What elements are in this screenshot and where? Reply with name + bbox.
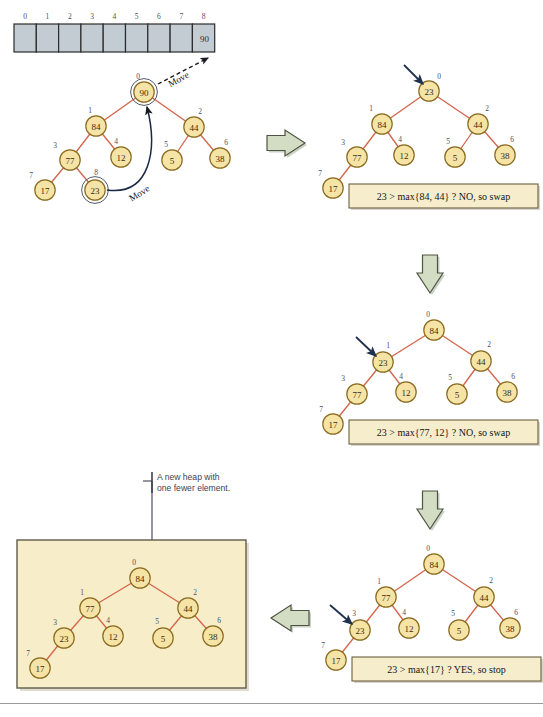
tree-node-value: 12 xyxy=(402,388,411,398)
tree-node-index: 6 xyxy=(511,372,515,381)
tree-node-value: 12 xyxy=(405,624,414,634)
tree-node-value: 44 xyxy=(474,120,484,130)
array-index-label: 4 xyxy=(112,12,116,21)
array-cell[interactable] xyxy=(36,24,58,52)
move-label-to-array: Move xyxy=(166,70,190,89)
tree-node-index: 6 xyxy=(510,135,514,144)
array-cell[interactable] xyxy=(103,24,125,52)
tree-node-value: 38 xyxy=(209,632,219,642)
tree-node-index: 2 xyxy=(193,588,197,597)
tree-node-value: 23 xyxy=(356,626,366,636)
heap-tree-step-3: 8407714422331245538617723 > max{17} ? YE… xyxy=(321,544,543,684)
tree-node-value: 38 xyxy=(503,388,513,398)
array-cell[interactable] xyxy=(126,24,148,52)
tree-node-value: 12 xyxy=(400,151,409,161)
tree-node-index: 4 xyxy=(399,372,403,381)
note-line-1: A new heap with xyxy=(157,472,220,482)
tree-node-value: 84 xyxy=(430,560,440,570)
tree-node-index: 3 xyxy=(341,138,345,147)
initial-heap-tree: 90084144277312455386177238 xyxy=(29,72,230,204)
array-cell[interactable] xyxy=(81,24,103,52)
tree-node-index: 7 xyxy=(26,649,30,658)
tree-node-value: 17 xyxy=(329,420,339,430)
current-node-pointer-arrow xyxy=(404,65,423,84)
tree-node-value: 23 xyxy=(425,87,435,97)
heap-array: 01234567890 xyxy=(14,12,215,53)
tree-node-index: 4 xyxy=(106,616,110,625)
tree-node-value: 17 xyxy=(41,186,51,196)
tree-node-index: 1 xyxy=(88,106,92,115)
tree-node-index: 2 xyxy=(198,107,202,116)
tree-node-value: 77 xyxy=(382,593,392,603)
tree-node-index: 5 xyxy=(451,609,455,618)
tree-node-value: 77 xyxy=(86,604,96,614)
caption-text: 23 > max{84, 44} ? NO, so swap xyxy=(377,191,510,202)
tree-node-index: 0 xyxy=(136,72,140,81)
array-index-label: 3 xyxy=(90,12,94,21)
flow-arrow-down-lower xyxy=(417,491,445,531)
tree-node-index: 5 xyxy=(446,137,450,146)
tree-node-index: 5 xyxy=(164,140,168,149)
flow-arrow-right-top xyxy=(267,130,307,158)
tree-node-value: 5 xyxy=(453,153,458,163)
tree-node-value: 77 xyxy=(353,390,363,400)
heap-delete-max-diagram: 0123456789090084144277312455386177238230… xyxy=(0,0,543,717)
tree-node-value: 5 xyxy=(170,156,175,166)
array-index-label: 2 xyxy=(68,12,72,21)
array-index-label: 7 xyxy=(179,12,183,21)
tree-node-index: 3 xyxy=(53,618,57,627)
tree-node-index: 1 xyxy=(80,588,84,597)
tree-node-index: 7 xyxy=(29,171,33,180)
tree-node-index: 0 xyxy=(132,558,136,567)
tree-node-index: 0 xyxy=(437,72,441,81)
tree-node-value: 38 xyxy=(216,154,226,164)
tree-node-value: 44 xyxy=(190,123,200,133)
tree-node-value: 44 xyxy=(480,593,490,603)
tree-node-value: 17 xyxy=(36,664,46,674)
tree-node-value: 23 xyxy=(379,358,389,368)
tree-node-index: 1 xyxy=(369,104,373,113)
tree-node-index: 7 xyxy=(319,405,323,414)
flow-arrow-left-bottom xyxy=(271,605,311,633)
tree-node-index: 4 xyxy=(114,137,118,146)
tree-node-value: 5 xyxy=(455,390,460,400)
array-cell[interactable] xyxy=(148,24,170,52)
tree-node-value: 23 xyxy=(60,634,70,644)
tree-node-index: 1 xyxy=(377,577,381,586)
tree-node-value: 5 xyxy=(457,626,462,636)
tree-node-index: 5 xyxy=(448,373,452,382)
array-index-label: 0 xyxy=(23,12,27,21)
tree-node-value: 17 xyxy=(329,184,339,194)
array-cell[interactable] xyxy=(170,24,192,52)
tree-node-value: 38 xyxy=(506,624,516,634)
tree-node-index: 7 xyxy=(318,169,322,178)
tree-node-value: 77 xyxy=(353,153,363,163)
tree-node-value: 38 xyxy=(501,151,511,161)
tree-node-index: 3 xyxy=(53,141,57,150)
figure-stage: 0123456789090084144277312455386177238230… xyxy=(0,0,543,717)
tree-node-value: 90 xyxy=(140,88,150,98)
tree-node-index: 0 xyxy=(426,310,430,319)
array-index-label: 6 xyxy=(157,12,161,21)
tree-node-index: 2 xyxy=(489,576,493,585)
tree-node-index: 7 xyxy=(321,641,325,650)
caption-text: 23 > max{77, 12} ? NO, so swap xyxy=(377,427,510,438)
tree-node-value: 77 xyxy=(66,156,76,166)
array-index-label: 8 xyxy=(202,12,206,21)
new-heap-note: A new heap withone fewer element. xyxy=(143,472,230,540)
tree-node-value: 84 xyxy=(92,122,102,132)
tree-node-index: 1 xyxy=(386,341,390,350)
tree-node-index: 0 xyxy=(426,544,430,553)
tree-node-value: 84 xyxy=(378,120,388,130)
current-node-pointer-arrow xyxy=(356,337,376,356)
tree-node-index: 6 xyxy=(514,608,518,617)
tree-node-index: 3 xyxy=(352,609,356,618)
tree-node-index: 2 xyxy=(487,340,491,349)
array-cell[interactable] xyxy=(59,24,81,52)
tree-node-value: 5 xyxy=(161,634,166,644)
array-cell[interactable] xyxy=(14,24,36,52)
current-node-pointer-arrow xyxy=(330,605,352,624)
array-index-label: 1 xyxy=(46,12,50,21)
tree-node-index: 4 xyxy=(398,135,402,144)
tree-node-index: 8 xyxy=(94,168,98,177)
